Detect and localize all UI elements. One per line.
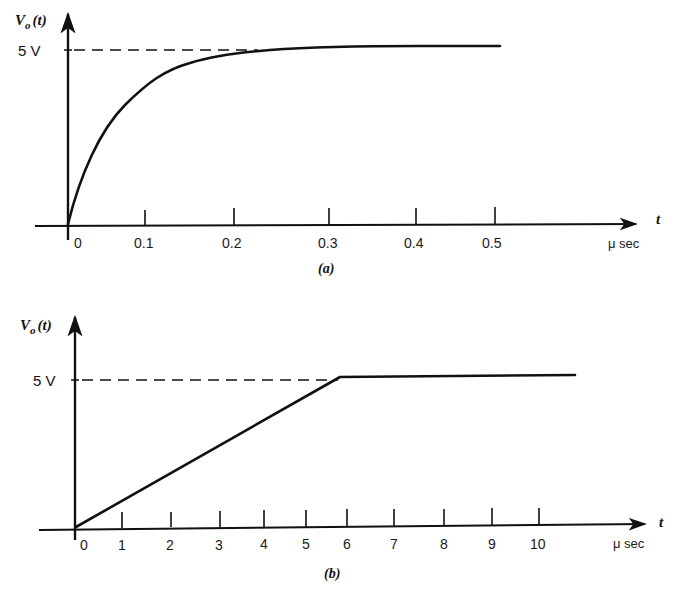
x-unit-a: μ sec [608,236,640,251]
x-unit-b: μ sec [613,536,645,551]
caption-a: (a) [318,261,334,277]
response-curve-a [68,46,500,224]
figure: Vo(t) 5 V 0 0.1 0.2 0.3 0.4 0.5 t μ sec … [0,0,683,600]
svg-text:9: 9 [488,536,496,552]
level-label-b: 5 V [33,372,56,389]
x-axis-b [39,524,645,530]
x-axis-label-a: t [656,211,661,227]
y-axis-label-a: Vo(t) [15,12,47,31]
x-axis-a [35,224,636,226]
chart-b: Vo(t) 5 V 0 1 2 3 4 5 6 7 8 9 [20,317,664,582]
svg-text:4: 4 [260,536,268,552]
svg-text:6: 6 [343,536,351,552]
y-axis-label-b: Vo(t) [20,317,52,336]
svg-text:0.4: 0.4 [404,235,424,251]
x-tick-labels-b: 0 1 2 3 4 5 6 7 8 9 10 [80,536,546,553]
x-axis-label-b: t [659,514,664,530]
x-ticks-a [145,207,495,225]
svg-text:2: 2 [166,537,174,553]
svg-text:5: 5 [302,536,310,552]
svg-text:1: 1 [118,537,126,553]
svg-text:0.5: 0.5 [482,235,502,251]
svg-text:0.1: 0.1 [134,235,154,251]
svg-text:7: 7 [390,536,398,552]
caption-b: (b) [324,566,340,582]
svg-text:0: 0 [80,537,88,553]
svg-text:8: 8 [440,536,448,552]
x-tick-labels-a: 0 0.1 0.2 0.3 0.4 0.5 [74,235,502,251]
svg-text:0: 0 [74,235,82,251]
chart-a: Vo(t) 5 V 0 0.1 0.2 0.3 0.4 0.5 t μ sec … [15,12,661,277]
svg-text:0.3: 0.3 [318,235,338,251]
level-label-a: 5 V [18,42,41,59]
svg-text:0.2: 0.2 [222,235,242,251]
svg-text:3: 3 [215,537,223,553]
svg-text:10: 10 [530,536,546,552]
response-curve-b [76,375,575,527]
